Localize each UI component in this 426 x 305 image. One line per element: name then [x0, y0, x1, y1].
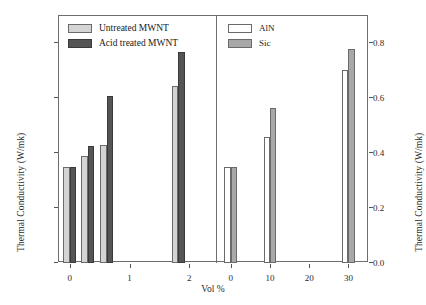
x-tick-label-1: 1 — [127, 273, 132, 283]
bar-sic-30 — [348, 49, 354, 263]
legend-swatch-sic-icon — [228, 39, 252, 48]
y-tick-label-right-0.6: 0.6 — [373, 93, 384, 103]
x-tick-r-0 — [231, 264, 232, 268]
thermal-conductivity-chart: Thermal Conductivity (W/mk) Thermal Cond… — [0, 0, 426, 305]
legend-mwnt: Untreated MWNT Acid treated MWNT — [68, 22, 178, 52]
y-tick-0.2 — [54, 207, 58, 208]
bar-sic-10 — [270, 108, 276, 263]
y-tick-0.0 — [54, 262, 58, 263]
x-tick-label-0: 0 — [67, 273, 72, 283]
legend-swatch-acid-icon — [68, 39, 92, 48]
y-tick-label-right-0.0: 0.0 — [373, 258, 384, 268]
x-tick-1 — [130, 264, 131, 268]
y-tick-0.4 — [54, 152, 58, 153]
legend-item-aln: AlN — [228, 22, 275, 34]
legend-ceramic: AlN Sic — [228, 22, 275, 52]
x-tick-r-30 — [348, 264, 349, 268]
bar-acid-0 — [70, 167, 77, 263]
x-tick-label-r-0: 0 — [228, 273, 233, 283]
legend-item-acid: Acid treated MWNT — [68, 37, 178, 49]
x-axis-title: Vol % — [0, 284, 426, 294]
y-tick-label-right-0.4: 0.4 — [373, 148, 384, 158]
legend-item-sic: Sic — [228, 37, 275, 49]
bar-acid-2 — [107, 96, 114, 263]
x-tick-r-10 — [270, 264, 271, 268]
legend-label-acid: Acid treated MWNT — [99, 38, 178, 48]
legend-swatch-aln-icon — [228, 24, 252, 33]
bar-sic-0 — [231, 167, 237, 263]
bar-acid-3 — [178, 52, 185, 263]
bar-acid-1 — [88, 146, 95, 263]
x-tick-2 — [189, 264, 190, 268]
x-tick-label-r-30: 30 — [344, 273, 353, 283]
x-tick-label-r-20: 20 — [305, 273, 314, 283]
y-tick-label-right-0.8: 0.8 — [373, 38, 384, 48]
y-tick-0.8 — [54, 42, 58, 43]
x-tick-r-20 — [309, 264, 310, 268]
legend-item-untreated: Untreated MWNT — [68, 22, 178, 34]
legend-label-sic: Sic — [259, 38, 271, 48]
legend-label-aln: AlN — [259, 23, 275, 33]
plot-area: 0.0 0.2 0.4 0.6 0.8 0 1 2 — [58, 15, 368, 262]
y-axis-title-right: Thermal Conductivity (W/mk) — [414, 133, 424, 252]
y-tick-0.6 — [54, 97, 58, 98]
mwnt-panel: 0.0 0.2 0.4 0.6 0.8 0 1 2 — [59, 16, 216, 263]
ceramic-panel: 0.0 0.2 0.4 0.6 0.8 0 10 20 30 — [217, 16, 368, 263]
y-tick-label-right-0.2: 0.2 — [373, 203, 384, 213]
x-tick-label-2: 2 — [187, 273, 192, 283]
y-axis-title-left: Thermal Conductivity (W/mk) — [16, 133, 26, 252]
legend-swatch-untreated-icon — [68, 24, 92, 33]
legend-label-untreated: Untreated MWNT — [99, 23, 169, 33]
x-tick-0 — [70, 264, 71, 268]
x-tick-label-r-10: 10 — [265, 273, 274, 283]
